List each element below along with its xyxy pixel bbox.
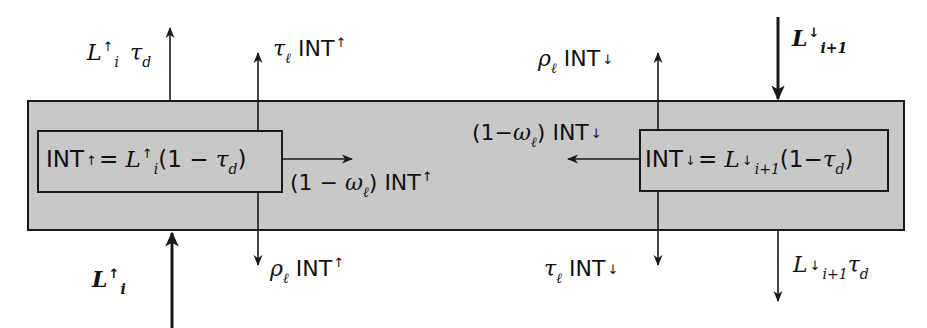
up-arrow-icon: ↑ [108, 266, 119, 281]
subscript-d: d [860, 266, 869, 282]
down-arrow-icon: ↓ [685, 153, 696, 168]
symbol-L: L [725, 146, 740, 172]
down-arrow-icon: ↓ [808, 25, 819, 40]
up-arrow-icon: ↑ [142, 146, 153, 161]
paren-open: (1− [472, 120, 513, 145]
paren-open: (1− [780, 146, 823, 172]
paren-close: ) [844, 146, 853, 172]
right-box-equation: INT↓= L↓i+1(1−τd) [645, 148, 853, 171]
equals-sign: = [99, 146, 118, 172]
paren-close: ) [369, 170, 385, 195]
symbol-rho: ρ [270, 256, 283, 281]
symbol-L: L [792, 25, 807, 51]
label-incoming-up: L↑i [92, 268, 126, 291]
paren-open: (1 − [158, 146, 216, 172]
subscript-l: ℓ [283, 270, 289, 286]
symbol-tau: τ [273, 36, 285, 61]
down-arrow-icon: ↓ [602, 52, 613, 67]
down-arrow-icon: ↓ [607, 262, 618, 277]
subscript-d: d [228, 161, 237, 177]
down-arrow-icon: ↓ [742, 153, 753, 168]
paren-open: (1 − [290, 170, 345, 195]
label-rho-int-up: ρℓ INT↑ [270, 258, 345, 280]
up-arrow-icon: ↑ [103, 39, 114, 54]
symbol-tau: τ [544, 256, 556, 281]
symbol-omega: ω [345, 170, 363, 195]
text-int: INT [569, 256, 605, 281]
subscript-i: i [115, 54, 119, 70]
label-absorbed-down: (1−ωℓ) INT↓ [472, 122, 604, 144]
text-int: INT [46, 146, 84, 172]
text-int: INT [296, 256, 332, 281]
text-int: INT [298, 36, 334, 61]
label-transmitted-down: L↓i+1τd [793, 254, 869, 276]
subscript-i-plus-1: i+1 [823, 266, 848, 282]
symbol-L: L [87, 40, 102, 65]
text-int: INT [645, 146, 683, 172]
symbol-tau: τ [216, 146, 229, 172]
symbol-omega: ω [513, 120, 531, 145]
down-arrow-icon: ↓ [810, 258, 821, 273]
up-arrow-icon: ↑ [86, 153, 97, 168]
subscript-d: d [142, 54, 151, 70]
label-tau-int-down: τℓ INT↓ [544, 258, 620, 280]
up-arrow-icon: ↑ [422, 169, 433, 184]
label-absorbed-up: (1 − ωℓ) INT↑ [290, 172, 434, 194]
text-int: INT [552, 120, 588, 145]
label-rho-int-down: ρℓ INT↓ [538, 48, 615, 70]
symbol-L: L [126, 146, 141, 172]
subscript-l: ℓ [285, 50, 291, 66]
up-arrow-icon: ↑ [333, 255, 344, 270]
up-arrow-icon: ↑ [335, 35, 346, 50]
label-incoming-down: L↓i+1 [792, 27, 847, 50]
subscript-i-plus-1: i+1 [820, 40, 847, 56]
symbol-tau: τ [848, 252, 860, 277]
subscript-l: ℓ [531, 134, 537, 150]
paren-close: ) [537, 120, 553, 145]
label-transmitted-up: L↑i τd [87, 42, 151, 64]
subscript-i: i [154, 161, 158, 177]
subscript-l: ℓ [551, 60, 557, 76]
symbol-tau: τ [130, 40, 142, 65]
text-int: INT [384, 170, 420, 195]
text-int: INT [564, 46, 600, 71]
left-box-equation: INT↑= L↑i(1 − τd) [46, 148, 246, 171]
equals-sign: = [698, 146, 717, 172]
symbol-L: L [92, 266, 107, 292]
subscript-i-plus-1: i+1 [755, 161, 780, 177]
paren-close: ) [237, 146, 246, 172]
subscript-d: d [835, 161, 844, 177]
subscript-l: ℓ [363, 184, 369, 200]
subscript-i: i [120, 281, 125, 297]
symbol-L: L [793, 252, 808, 277]
symbol-rho: ρ [538, 46, 551, 71]
symbol-tau: τ [823, 146, 836, 172]
subscript-l: ℓ [556, 270, 562, 286]
label-tau-int-up: τℓ INT↑ [273, 38, 347, 60]
down-arrow-icon: ↓ [591, 126, 602, 141]
